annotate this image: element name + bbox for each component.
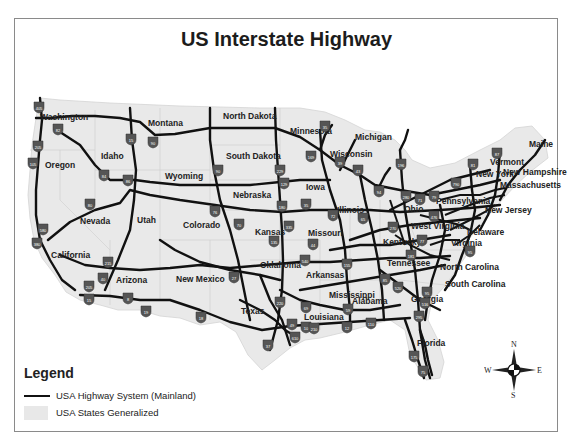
interstate-shield-icon: 380 <box>32 238 42 249</box>
svg-text:35: 35 <box>323 125 328 130</box>
state-label: North Carolina <box>440 262 499 272</box>
svg-text:69: 69 <box>304 306 309 311</box>
svg-text:169: 169 <box>308 155 315 160</box>
svg-text:59: 59 <box>346 308 351 313</box>
svg-text:79: 79 <box>432 195 437 200</box>
svg-text:110: 110 <box>368 322 375 327</box>
svg-text:80: 80 <box>88 203 93 208</box>
legend-item-label: USA States Generalized <box>56 407 158 418</box>
state-label: West Virginia <box>411 221 465 231</box>
svg-text:95: 95 <box>468 250 473 255</box>
svg-text:335: 335 <box>286 225 293 230</box>
interstate-shield-icon: 95 <box>465 246 475 257</box>
compass-north-label: N <box>511 340 517 349</box>
svg-text:135: 135 <box>271 240 278 245</box>
interstate-shield-icon: 210 <box>309 323 319 334</box>
interstate-shield-icon: 80 <box>85 199 95 210</box>
interstate-shield-icon: 76 <box>210 206 220 217</box>
svg-text:580: 580 <box>40 228 47 233</box>
interstate-shield-icon: 540 <box>300 255 310 266</box>
state-label: Alabama <box>352 296 388 306</box>
svg-text:610: 610 <box>292 336 299 341</box>
interstate-shield-icon: 220 <box>275 297 285 308</box>
interstate-shield-icon: 110 <box>366 318 376 329</box>
svg-text:90: 90 <box>216 169 221 174</box>
interstate-shield-icon: 215 <box>103 257 113 268</box>
state-label: Nevada <box>80 216 111 226</box>
interstate-shield-icon: 44 <box>308 239 318 250</box>
state-label: Oklahoma <box>260 260 301 270</box>
interstate-shield-icon: 87 <box>492 148 502 159</box>
interstate-shield-icon: 40 <box>98 273 108 284</box>
svg-text:520: 520 <box>395 286 402 291</box>
svg-text:540: 540 <box>302 259 309 264</box>
svg-text:280: 280 <box>403 195 410 200</box>
interstate-shield-icon: 229 <box>275 165 285 176</box>
interstate-shield-icon: 27 <box>229 272 239 283</box>
svg-text:35: 35 <box>304 203 309 208</box>
interstate-shield-icon: 79 <box>429 191 439 202</box>
interstate-shield-icon: 59 <box>343 304 353 315</box>
interstate-shield-icon: 180 <box>277 201 287 212</box>
interstate-shield-icon: 15 <box>84 294 94 305</box>
interstate-shield-icon: 18 <box>196 312 206 323</box>
svg-text:86: 86 <box>126 179 131 184</box>
legend-title: Legend <box>24 365 196 381</box>
interstate-shield-icon: 520 <box>393 282 403 293</box>
interstate-shield-icon: 75 <box>418 366 428 377</box>
state-label: Florida <box>417 338 446 348</box>
legend-item-highway: USA Highway System (Mainland) <box>24 387 196 404</box>
interstate-shield-icon: 69 <box>301 302 311 313</box>
interstate-shield-icon: 39 <box>335 157 345 168</box>
state-label: Pennsylvania <box>436 196 491 206</box>
svg-text:81: 81 <box>471 163 476 168</box>
svg-text:75: 75 <box>421 370 426 375</box>
svg-text:43: 43 <box>356 169 361 174</box>
state-label: Washington <box>40 112 88 122</box>
compass-west-label: W <box>484 366 492 375</box>
interstate-shield-icon: 790 <box>451 178 461 189</box>
svg-text:295: 295 <box>416 315 423 320</box>
state-label: South Carolina <box>445 279 506 289</box>
interstate-shield-icon: 95 <box>422 287 432 298</box>
interstate-shield-icon: 71 <box>415 194 425 205</box>
state-label: Iowa <box>306 182 325 192</box>
svg-text:65: 65 <box>361 217 366 222</box>
state-label: Maine <box>529 139 553 149</box>
state-label: Texas <box>241 306 265 316</box>
svg-text:10: 10 <box>304 326 309 331</box>
interstate-shield-icon: 81 <box>468 159 478 170</box>
svg-text:215: 215 <box>105 261 112 266</box>
interstate-shield-icon: 35 <box>320 121 330 132</box>
state-label: Michigan <box>355 132 392 142</box>
interstate-shield-icon: 205 <box>84 281 94 292</box>
svg-text:476: 476 <box>431 215 438 220</box>
svg-text:70: 70 <box>237 223 242 228</box>
state-label: Colorado <box>183 220 220 230</box>
state-label: Oregon <box>45 160 75 170</box>
svg-text:76: 76 <box>213 210 218 215</box>
svg-text:27: 27 <box>232 276 237 281</box>
state-label: Kentucky <box>383 237 422 247</box>
state-label: Louisiana <box>304 312 344 322</box>
svg-text:181: 181 <box>408 254 415 259</box>
svg-text:77: 77 <box>420 239 425 244</box>
interstate-shield-icon: 90 <box>213 165 223 176</box>
interstate-shield-icon: 72 <box>328 210 338 221</box>
state-label: Arizona <box>116 275 147 285</box>
svg-text:40: 40 <box>101 277 106 282</box>
state-label: Missouri <box>308 228 343 238</box>
interstate-shield-icon: 49 <box>287 319 297 330</box>
legend-item-label: USA Highway System (Mainland) <box>56 390 196 401</box>
interstate-shield-icon: 205 <box>33 141 43 152</box>
svg-text:180: 180 <box>279 205 286 210</box>
interstate-shield-icon: 181 <box>406 250 416 261</box>
state-label: Arkansas <box>306 270 345 280</box>
svg-text:790: 790 <box>453 182 460 187</box>
interstate-shield-icon: 37 <box>263 340 273 351</box>
svg-text:205: 205 <box>86 285 93 290</box>
compass-east-label: E <box>537 366 542 375</box>
svg-text:37: 37 <box>266 344 271 349</box>
interstate-shield-icon: 85 <box>380 274 390 285</box>
interstate-shield-icon: 476 <box>429 211 439 222</box>
